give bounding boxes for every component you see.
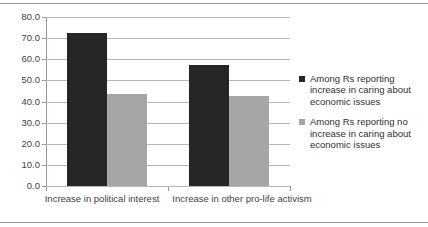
plot-area (46, 17, 290, 186)
bar-chart: 80.070.060.050.040.030.020.010.00.0 Incr… (0, 0, 428, 227)
y-tick-label-50.0: 50.0 (4, 75, 40, 85)
chart-legend: Among Rs reporting increase in caring ab… (299, 73, 425, 159)
bar-series1-cat1 (229, 96, 269, 186)
bar-series1-cat0 (107, 94, 147, 186)
gridline-0.0 (46, 186, 290, 187)
gridline-80.0 (46, 17, 290, 18)
legend-label-1: Among Rs reporting no increase in caring… (310, 116, 411, 150)
y-tick-label-70.0: 70.0 (4, 33, 40, 43)
y-tick-label-10.0: 10.0 (4, 160, 40, 170)
bottom-border-rule (0, 222, 428, 223)
legend-entry-0[interactable]: Among Rs reporting increase in caring ab… (299, 73, 425, 107)
top-border-rule (0, 3, 428, 4)
x-axis-category-label-0: Increase in political interest (32, 193, 172, 205)
bar-series0-cat0 (67, 33, 107, 186)
legend-entry-1[interactable]: Among Rs reporting no increase in caring… (299, 116, 425, 150)
y-tick-label-40.0: 40.0 (4, 97, 40, 107)
x-tick-mark-0 (46, 187, 47, 191)
legend-swatch-icon-0 (299, 76, 305, 82)
y-tick-label-60.0: 60.0 (4, 54, 40, 64)
y-tick-label-30.0: 30.0 (4, 118, 40, 128)
legend-label-0: Among Rs reporting increase in caring ab… (310, 73, 411, 107)
y-tick-label-80.0: 80.0 (4, 12, 40, 22)
legend-swatch-icon-1 (299, 119, 305, 125)
x-axis-category-label-1: Increase in other pro-life activism (172, 193, 312, 205)
x-tick-mark-2 (290, 187, 291, 191)
y-tick-label-20.0: 20.0 (4, 139, 40, 149)
y-tick-label-0.0: 0.0 (4, 181, 40, 191)
x-tick-mark-1 (168, 187, 169, 191)
bar-series0-cat1 (189, 65, 229, 186)
